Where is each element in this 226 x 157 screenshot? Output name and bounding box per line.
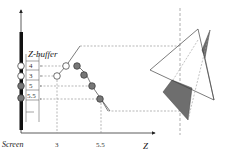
z-tick-label: 3 [55,141,59,149]
pixel-gray-dot [18,95,25,102]
gray-depth-dot [74,63,81,70]
white-polygon-depth-line [57,46,80,76]
z-axis-label: Z [143,141,149,151]
z-tick-label: 5.5 [96,141,105,149]
zbuffer-diagram: Z-buffer 4 3 5 5.5 Screen Z 3 5.5 [0,0,226,157]
zbuffer-value: 5 [29,82,33,90]
zbuffer-value: 4 [29,62,33,70]
gray-depth-dot [97,96,104,103]
pixel-gray-dot [18,83,25,90]
pixel-white-dot [18,73,25,80]
zbuffer-title: Z-buffer [28,49,58,59]
gray-depth-dot [89,83,96,90]
zbuffer-value: 3 [29,72,33,80]
gray-depth-dot [81,72,88,79]
screen-bar [20,32,24,130]
zbuffer-column [26,54,39,122]
white-depth-dot [54,73,61,80]
white-depth-dot [63,63,70,70]
gray-polygon-lower [163,80,192,120]
pixel-white-dot [18,63,25,70]
zbuffer-value: 5.5 [27,92,36,100]
screen-axis-label: Screen [2,140,23,149]
